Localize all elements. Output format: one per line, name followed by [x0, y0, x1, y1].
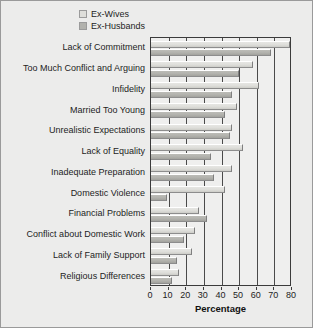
x-axis-tick-label: 20	[180, 290, 190, 300]
bar	[151, 70, 239, 77]
bar	[151, 153, 211, 160]
legend-label: Ex-Husbands	[91, 21, 145, 31]
category-label: Lack of Commitment	[62, 42, 145, 52]
category-label: Religious Differences	[60, 271, 145, 281]
gridline	[239, 38, 240, 285]
bar	[151, 257, 177, 264]
x-axis-tick-label: 0	[147, 290, 152, 300]
legend-label: Ex-Wives	[91, 9, 129, 19]
category-label: Domestic Violence	[71, 188, 145, 198]
gridline	[274, 38, 275, 285]
bar	[151, 194, 167, 201]
x-axis-tick-label: 60	[251, 290, 261, 300]
bar	[151, 165, 232, 172]
bar	[151, 111, 225, 118]
x-axis: 01020304050607080	[150, 287, 291, 303]
x-axis-tick-label: 80	[286, 290, 296, 300]
bar	[151, 49, 271, 56]
bar	[151, 248, 192, 255]
category-label: Too Much Conflict and Arguing	[23, 63, 145, 73]
category-label: Lack of Equality	[81, 146, 145, 156]
category-label: Conflict about Domestic Work	[27, 229, 145, 239]
bar	[151, 132, 230, 139]
category-label: Financial Problems	[68, 208, 145, 218]
x-axis-tick-label: 30	[198, 290, 208, 300]
bar	[151, 207, 199, 214]
bar	[151, 215, 207, 222]
bar	[151, 227, 195, 234]
bar	[151, 277, 172, 284]
bar	[151, 144, 243, 151]
bar	[151, 41, 290, 48]
legend-swatch-icon	[79, 10, 87, 18]
plot-area	[150, 37, 291, 286]
category-axis: Lack of CommitmentToo Much Conflict and …	[5, 37, 148, 286]
bar	[151, 61, 253, 68]
bar	[151, 91, 232, 98]
legend-item: Ex-Husbands	[79, 20, 199, 31]
x-axis-tick-label: 10	[163, 290, 173, 300]
legend-item: Ex-Wives	[79, 8, 199, 19]
legend-swatch-icon	[79, 22, 87, 30]
bar	[151, 82, 259, 89]
bar	[151, 174, 214, 181]
bar	[151, 269, 179, 276]
bar	[151, 236, 184, 243]
bar	[151, 186, 225, 193]
bar	[151, 103, 237, 110]
bar	[151, 124, 232, 131]
gridline	[257, 38, 258, 285]
x-axis-title: Percentage	[150, 303, 291, 314]
category-label: Inadequate Preparation	[51, 167, 145, 177]
chart-figure: Ex-WivesEx-Husbands Lack of CommitmentTo…	[0, 0, 313, 328]
chart-legend: Ex-WivesEx-Husbands	[79, 8, 199, 32]
x-axis-tick-label: 40	[215, 290, 225, 300]
category-label: Unrealistic Expectations	[49, 125, 145, 135]
category-label: Lack of Family Support	[53, 250, 145, 260]
x-axis-tick-label: 70	[268, 290, 278, 300]
category-label: Infidelity	[112, 84, 145, 94]
x-axis-tick-label: 50	[233, 290, 243, 300]
category-label: Married Too Young	[70, 105, 145, 115]
